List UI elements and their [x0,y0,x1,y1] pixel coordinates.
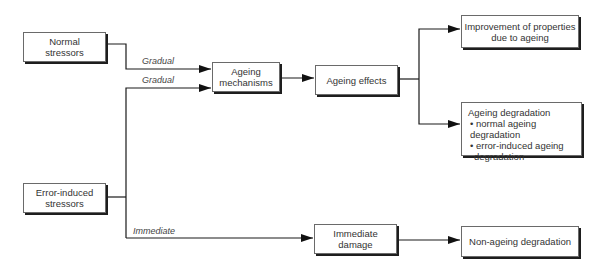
node-ageing-degradation: Ageing degradation • normal ageing degra… [461,102,582,156]
edge-effects-to-improvement [419,29,460,79]
node-non-ageing-degradation: Non-ageing degradation [461,226,579,257]
node-label: Ageing effects [326,75,386,86]
edge-effects-to-degradation [419,79,460,124]
node-label: Non-ageing degradation [469,236,571,247]
node-label: mechanisms [219,77,272,88]
node-immediate-damage: Immediatedamage [314,224,397,254]
node-label: Error-induced [36,187,94,198]
edge-label-immediate: Immediate [133,226,175,236]
node-normal-stressors: Normalstressors [23,32,106,62]
edge-error-to-mechanisms [126,88,211,238]
node-label: stressors [45,198,84,209]
node-title: Ageing degradation [468,107,575,118]
node-ageing-effects: Ageing effects [315,65,398,95]
bullet-item: • error-induced ageing [468,140,575,151]
node-improvement: Improvement of propertiesdue to ageing [461,15,579,48]
bullet-item: • normal ageing degradation [468,118,575,140]
bullet-item-cont: degradation [468,151,575,162]
node-ageing-mechanisms: Ageingmechanisms [212,62,280,92]
node-label: due to ageing [491,32,549,43]
node-label: Ageing [231,66,261,77]
node-label: Immediate [333,228,377,239]
node-error-induced-stressors: Error-inducedstressors [23,183,106,213]
node-label: Improvement of properties [465,21,576,32]
node-label: damage [338,239,372,250]
edge-label-gradual: Gradual [142,75,174,85]
node-label: stressors [45,47,84,58]
node-label: Normal [49,36,80,47]
edge-label-gradual: Gradual [142,56,174,66]
